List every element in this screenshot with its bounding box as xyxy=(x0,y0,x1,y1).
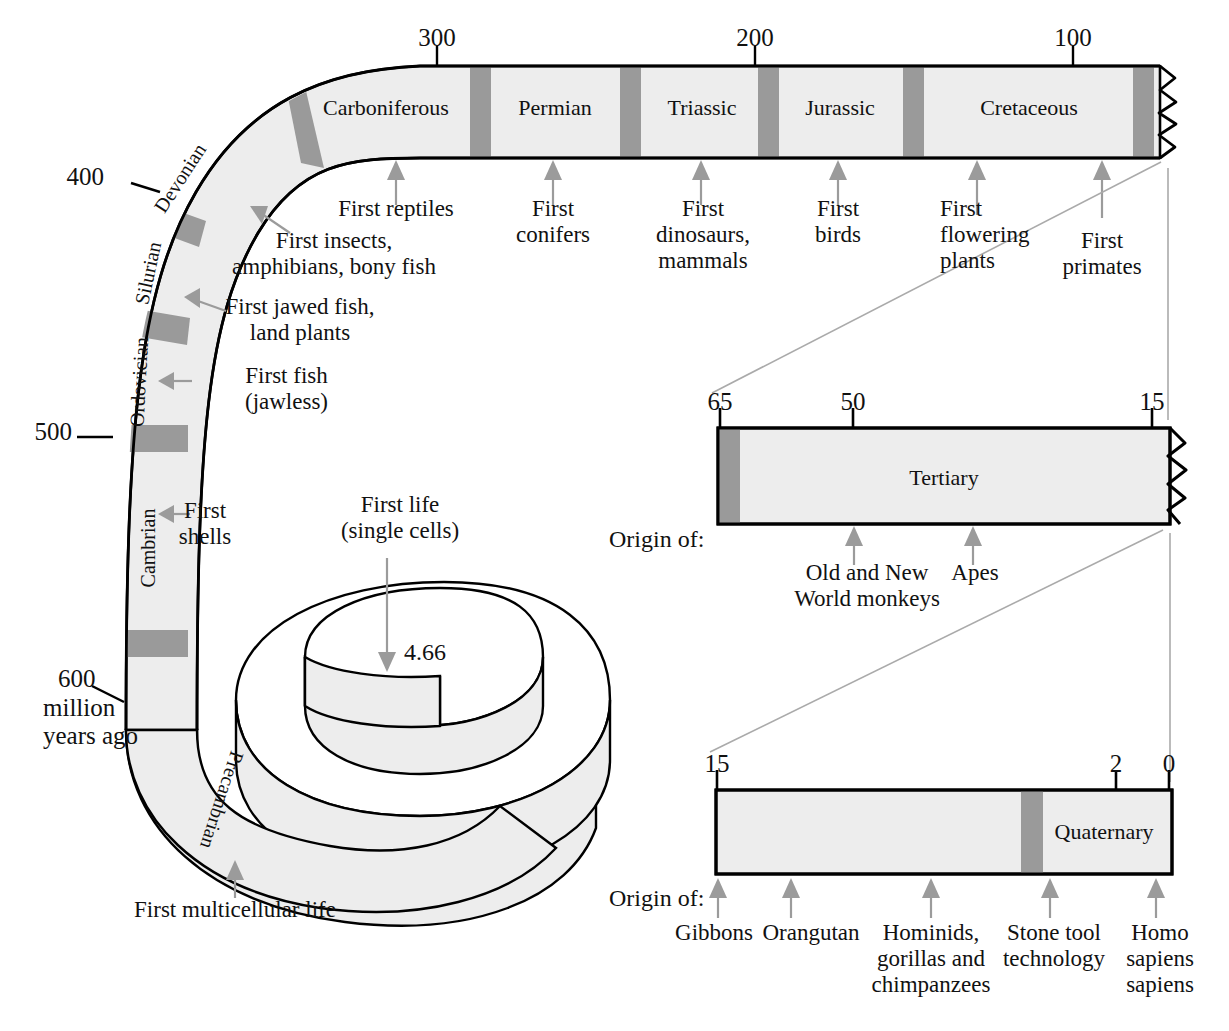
tick-label-200: 200 xyxy=(736,24,774,52)
annotation-first-shells: First shells xyxy=(179,498,231,550)
tick-label-100: 100 xyxy=(1054,24,1092,52)
annotation-first-primates: First primates xyxy=(1062,228,1141,280)
annotation-first-multicellular-life: First multicellular life xyxy=(134,897,336,923)
tertiary-period-label: Tertiary xyxy=(909,466,978,491)
quaternary-tick-label-2: 2 xyxy=(1110,750,1123,778)
arrow-gibbons xyxy=(709,878,727,918)
tertiary-origin-of-label: Origin of: xyxy=(609,526,704,553)
period-label-carboniferous: Carboniferous xyxy=(323,96,449,121)
arrow-homo-sapiens xyxy=(1147,878,1165,918)
quaternary-event-stone-tool: Stone tool technology xyxy=(1003,920,1105,972)
tick-label-400: 400 xyxy=(67,163,105,191)
quaternary-ticks xyxy=(717,770,1169,790)
annotation-first-birds: First birds xyxy=(815,196,861,248)
quaternary-tick-label-0: 0 xyxy=(1163,750,1176,778)
annotation-first-jawed-fish: First jawed fish, land plants xyxy=(226,294,375,346)
quaternary-origin-of-label: Origin of: xyxy=(609,885,704,912)
period-label-ordovician: Ordovician xyxy=(125,336,152,427)
quaternary-period-label: Quaternary xyxy=(1055,820,1154,845)
arrow-orangutan xyxy=(782,878,800,918)
tick-label-600: 600 xyxy=(58,665,96,693)
annotation-first-insects: First insects, amphibians, bony fish xyxy=(232,228,436,280)
annotation-first-life-single-cells: First life (single cells) xyxy=(341,492,459,544)
tertiary-leading-divider xyxy=(718,424,740,528)
tertiary-tick-label-15: 15 xyxy=(1140,388,1165,416)
annotation-first-flowering-plants: First flowering plants xyxy=(940,196,1029,273)
tick-label-300: 300 xyxy=(418,24,456,52)
axis-caption: million years ago xyxy=(43,694,138,750)
quaternary-event-orangutan: Orangutan xyxy=(762,920,859,946)
quaternary-event-hominids: Hominids, gorillas and chimpanzees xyxy=(872,920,991,997)
quaternary-event-gibbons: Gibbons xyxy=(675,920,753,946)
annotation-first-dinosaurs-mammals: First dinosaurs, mammals xyxy=(656,196,750,273)
spiral-center-value: 4.66 xyxy=(404,639,446,666)
arrow-hominids xyxy=(922,878,940,918)
tertiary-tick-label-65: 65 xyxy=(708,388,733,416)
tertiary-event-monkeys: Old and New World monkeys xyxy=(794,560,940,612)
band-torn-edge xyxy=(1159,66,1176,158)
period-label-cambrian: Cambrian xyxy=(137,509,159,588)
period-label-jurassic: Jurassic xyxy=(805,96,875,121)
annotation-first-reptiles: First reptiles xyxy=(338,196,454,222)
quaternary-event-arrows xyxy=(709,878,1165,918)
figure-canvas: 300 200 100 400 500 600 million years ag… xyxy=(0,0,1229,1031)
annotation-first-fish-jawless: First fish (jawless) xyxy=(245,363,328,415)
quaternary-tick-label-15: 15 xyxy=(705,750,730,778)
period-label-triassic: Triassic xyxy=(668,96,737,121)
period-label-permian: Permian xyxy=(518,96,591,121)
tick-label-500: 500 xyxy=(35,418,73,446)
tertiary-ticks xyxy=(720,408,1152,428)
quaternary-event-homo-sapiens: Homo sapiens sapiens xyxy=(1126,920,1194,997)
tertiary-tick-label-50: 50 xyxy=(841,388,866,416)
annotation-first-conifers: First conifers xyxy=(516,196,590,248)
tertiary-event-apes: Apes xyxy=(951,560,998,586)
period-label-cretaceous: Cretaceous xyxy=(980,96,1078,121)
arrow-stone-tool xyxy=(1041,878,1059,918)
quaternary-leading-divider xyxy=(1021,786,1043,878)
